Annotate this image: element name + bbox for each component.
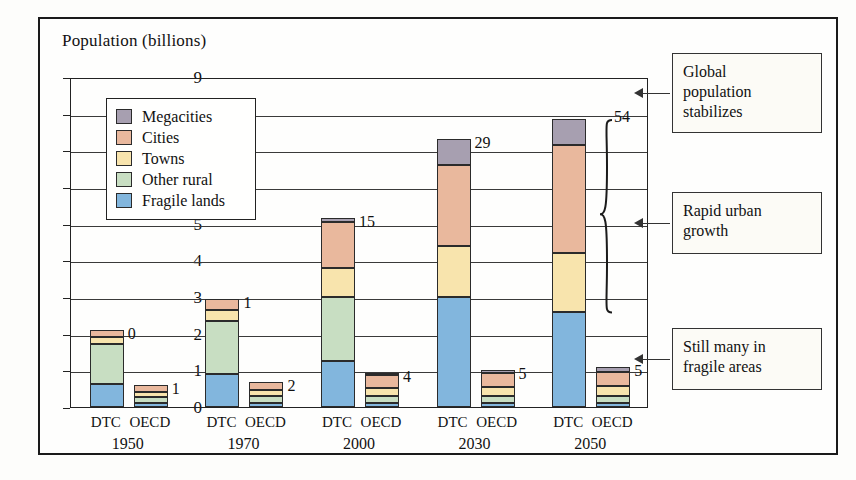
annotation-arrowhead-icon [634,88,643,98]
bar-segment-megacities [552,119,586,145]
legend-swatch-icon [116,151,132,166]
annotation-line: stabilizes [683,102,811,122]
bar-segment-towns [249,390,283,396]
y-tick-mark [63,225,70,226]
bar-segment-cities [134,385,168,392]
legend-item-towns[interactable]: Towns [116,148,246,169]
y-tick-mark [63,78,70,79]
bar-segment-towns [481,387,515,396]
bar-segment-cities [90,330,124,337]
bar-segment-fragile-lands [481,403,515,407]
legend-label: Cities [142,130,179,146]
legend-item-fragile-lands[interactable]: Fragile lands [116,190,246,211]
bar-segment-other-rural [365,396,399,403]
bar-dtc-2030[interactable] [437,139,471,407]
y-tick-mark [63,371,70,372]
y-tick-mark [63,408,70,409]
bar-oecd-2030[interactable] [481,370,515,407]
brace-label: 54 [614,108,630,126]
bar-segment-other-rural [596,396,630,403]
bar-segment-cities [552,145,586,253]
chart-canvas: Population (billions) 0123456789 DTCOECD… [0,0,856,480]
x-axis-year-2030: 2030 [425,435,525,453]
bar-segment-megacities [481,370,515,372]
bar-segment-fragile-lands [321,361,355,407]
bar-oecd-1970[interactable] [249,382,283,407]
bar-oecd-2000[interactable] [365,373,399,407]
x-axis-year-1970: 1970 [193,435,293,453]
annotation-line: Still many in [683,337,811,357]
value-label-oecd-1970: 2 [287,377,295,395]
legend-label: Other rural [142,172,213,188]
bar-segment-cities [365,375,399,388]
bar-segment-megacities [365,373,399,375]
bar-dtc-2050[interactable] [552,119,586,407]
x-label-oecd-2050: OECD [582,414,642,431]
legend-item-cities[interactable]: Cities [116,127,246,148]
bar-segment-fragile-lands [552,312,586,407]
annotation-line: Rapid urban [683,201,811,221]
y-tick-mark [63,261,70,262]
bar-segment-fragile-lands [596,403,630,407]
bar-segment-cities [249,382,283,390]
x-axis-year-1950: 1950 [78,435,178,453]
bar-segment-other-rural [134,397,168,404]
annotation-still-many-in-fragile-areas: Still many infragile areas [672,328,822,390]
bar-segment-megacities [596,367,630,372]
legend-swatch-icon [116,130,132,145]
bar-segment-cities [321,222,355,268]
bar-segment-other-rural [481,396,515,403]
figure-caption [44,462,844,474]
bar-oecd-1950[interactable] [134,385,168,407]
bar-segment-megacities [437,139,471,165]
value-label-oecd-2030: 5 [519,365,527,383]
bar-segment-fragile-lands [205,374,239,407]
bar-segment-towns [552,253,586,312]
legend-item-other-rural[interactable]: Other rural [116,169,246,190]
bar-segment-other-rural [90,344,124,384]
y-tick-mark [63,115,70,116]
annotation-arrowhead-icon [634,218,643,228]
value-label-oecd-1950: 1 [172,380,180,398]
x-axis-year-2000: 2000 [309,435,409,453]
bar-segment-fragile-lands [437,297,471,407]
bar-segment-towns [90,337,124,344]
bar-dtc-1970[interactable] [205,299,239,407]
annotation-global-population-stabilizes: Globalpopulationstabilizes [672,53,822,133]
annotation-line: fragile areas [683,357,811,377]
bar-segment-cities [205,299,239,310]
legend: MegacitiesCitiesTownsOther ruralFragile … [106,98,256,220]
x-label-oecd-1950: OECD [120,414,180,431]
annotation-line: Global [683,62,811,82]
annotation-line: population [683,82,811,102]
bar-segment-fragile-lands [134,403,168,407]
x-label-oecd-2000: OECD [351,414,411,431]
bar-segment-other-rural [205,321,239,374]
legend-swatch-icon [116,109,132,124]
bar-segment-cities [596,372,630,387]
value-label-oecd-2000: 4 [403,368,411,386]
legend-item-megacities[interactable]: Megacities [116,106,246,127]
legend-swatch-icon [116,172,132,187]
annotation-arrowhead-icon [634,354,643,364]
annotation-leader-line [642,93,670,94]
bar-segment-fragile-lands [249,403,283,407]
bar-segment-fragile-lands [90,384,124,407]
y-axis-title: Population (billions) [62,31,206,51]
value-label-oecd-2050: 5 [634,362,642,380]
bar-segment-towns [365,388,399,396]
x-axis-year-2050: 2050 [540,435,640,453]
bar-segment-megacities [321,218,355,222]
annotation-rapid-urban-growth: Rapid urbangrowth [672,192,822,254]
bar-dtc-1950[interactable] [90,330,124,407]
bar-oecd-2050[interactable] [596,367,630,407]
y-tick-mark [63,298,70,299]
bar-segment-fragile-lands [365,403,399,407]
legend-label: Megacities [142,109,212,125]
value-label-dtc-1950: 0 [128,325,136,343]
annotation-leader-line [642,359,670,360]
bar-dtc-2000[interactable] [321,218,355,407]
y-tick-mark [63,335,70,336]
bar-segment-towns [437,246,471,297]
bar-segment-towns [596,386,630,396]
